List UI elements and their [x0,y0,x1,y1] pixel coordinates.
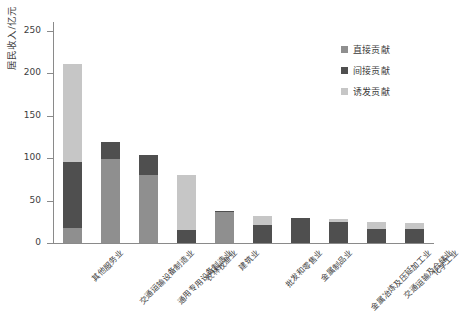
bar[interactable] [253,216,272,243]
legend-label: 诱发贡献 [353,85,390,98]
legend-label: 间接贡献 [353,64,390,77]
legend-item[interactable]: 间接贡献 [341,65,441,76]
legend-swatch-icon [341,46,348,53]
y-axis-tick-label: 0 [11,237,41,247]
y-axis-tick-label: 100 [11,152,41,162]
y-axis-tick-label: 250 [11,25,41,35]
bar-segment-induced[interactable] [367,222,386,229]
bar[interactable] [405,223,424,243]
legend-label: 直接贡献 [353,43,390,56]
bar[interactable] [177,175,196,243]
legend-swatch-icon [341,88,348,95]
chart-legend: 直接贡献间接贡献诱发贡献 [341,44,441,107]
bar-segment-direct[interactable] [139,175,158,243]
bar-segment-indirect[interactable] [405,229,424,243]
bar-segment-induced[interactable] [63,64,82,163]
bar-segment-direct[interactable] [215,212,234,243]
bar-segment-indirect[interactable] [291,218,310,243]
bar[interactable] [367,222,386,243]
legend-item[interactable]: 诱发贡献 [341,86,441,97]
bar-segment-indirect[interactable] [101,142,120,159]
bar-segment-direct[interactable] [101,159,120,243]
bar-segment-induced[interactable] [253,216,272,225]
bar-segment-indirect[interactable] [177,230,196,243]
bar[interactable] [329,219,348,243]
x-axis-tick-label: 其他服务业 [89,247,125,283]
y-axis-label: 居民收入/亿元 [4,0,18,98]
bar-segment-indirect[interactable] [253,225,272,243]
legend-swatch-icon [341,67,348,74]
y-axis-tick [47,243,53,244]
bar[interactable] [215,211,234,243]
bar-segment-indirect[interactable] [329,222,348,243]
x-axis-tick-label: 批发和零售业 [282,247,324,289]
legend-item[interactable]: 直接贡献 [341,44,441,55]
bar-segment-indirect[interactable] [367,229,386,243]
y-axis-tick-label: 200 [11,67,41,77]
bar[interactable] [291,218,310,243]
bar[interactable] [63,64,82,243]
y-axis-tick-label: 50 [11,195,41,205]
bar-segment-indirect[interactable] [63,162,82,227]
x-axis-line [53,243,434,244]
x-axis-tick-label: 建筑业 [237,247,262,272]
y-axis-tick-label: 150 [11,110,41,120]
bar[interactable] [101,142,120,243]
bar-segment-direct[interactable] [63,228,82,243]
bar[interactable] [139,155,158,243]
bar-segment-induced[interactable] [177,175,196,230]
bar-segment-indirect[interactable] [139,155,158,175]
